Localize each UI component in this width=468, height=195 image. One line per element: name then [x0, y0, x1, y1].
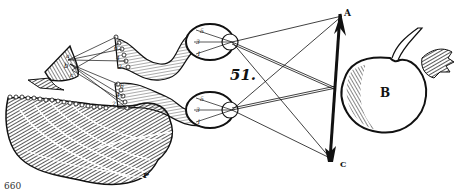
- engraving-figure: a b c 6 4 2 6 4 2 5: [0, 0, 468, 195]
- pineal-gland: a b c: [28, 46, 78, 90]
- gland-label-a: a: [66, 52, 70, 59]
- nerve-label-2-upper: 2: [117, 63, 122, 70]
- eye-label-1-upper: 1: [197, 50, 201, 57]
- eye-label-1-lower: 1: [197, 118, 201, 125]
- lower-eye: 5 3 1: [186, 92, 238, 128]
- eye-label-5-upper: 5: [200, 27, 204, 34]
- label-a: A: [343, 8, 352, 18]
- nerve-label-6-lower: 6: [120, 82, 124, 89]
- figure-number: 51.: [230, 66, 256, 84]
- light-rays: [232, 16, 342, 158]
- eye-label-3-upper: 3: [196, 38, 200, 45]
- nerve-label-2-lower: 2: [111, 100, 116, 107]
- page-number: 660: [4, 181, 21, 191]
- eye-label-3-lower: 3: [196, 106, 200, 113]
- apple-object: B: [342, 28, 454, 133]
- upper-eye: 5 3 1: [186, 24, 238, 60]
- label-b: B: [380, 86, 390, 100]
- nerve-label-4-upper: 4: [115, 54, 120, 61]
- eye-label-5-lower: 5: [200, 95, 204, 102]
- label-c: C: [340, 159, 346, 169]
- label-p: P: [143, 170, 149, 180]
- gland-label-b: b: [64, 62, 69, 70]
